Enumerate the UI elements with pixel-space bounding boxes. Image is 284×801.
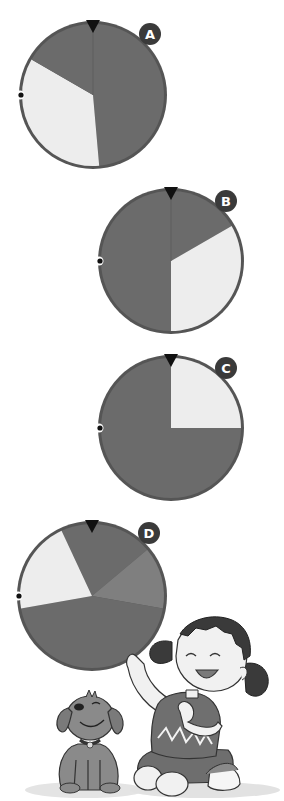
- spinner-diagram: ABCD: [0, 0, 284, 801]
- label-badge-text: C: [221, 361, 231, 376]
- girl-pigtail-left: [150, 641, 172, 664]
- dog-illustration: [25, 690, 145, 798]
- label-badge-text: B: [221, 194, 231, 209]
- dog-head: [66, 696, 114, 740]
- girl-illustration: [127, 617, 280, 798]
- spinner-sector-dark: [21, 596, 163, 668]
- spinners-group: ABCD: [14, 20, 245, 671]
- spinner-c: C: [95, 354, 245, 501]
- spinner-sector-dark: [93, 24, 164, 166]
- pivot-dot-icon: [97, 425, 102, 430]
- dog-paw-right: [100, 783, 120, 793]
- spinner-b: B: [95, 187, 245, 334]
- dog-tag: [87, 742, 93, 748]
- girl-pigtail-right: [244, 663, 268, 696]
- spinner-sector-dark: [101, 191, 171, 331]
- pivot-dot-icon: [97, 258, 102, 263]
- girl-knee-right: [156, 772, 188, 796]
- spinner-sector-dark: [171, 428, 241, 498]
- dog-paw-left: [60, 783, 80, 793]
- pivot-dot-icon: [16, 593, 21, 598]
- label-badge-text: A: [145, 27, 155, 42]
- spinner-sector-dark: [101, 358, 171, 498]
- dog-nose: [74, 704, 84, 711]
- dog-tuft: [86, 690, 97, 698]
- label-badge-text: D: [144, 526, 155, 541]
- pivot-dot-icon: [18, 92, 23, 97]
- spinner-d: D: [14, 520, 168, 671]
- spinner-a: A: [16, 20, 168, 169]
- girl-neck: [186, 690, 198, 698]
